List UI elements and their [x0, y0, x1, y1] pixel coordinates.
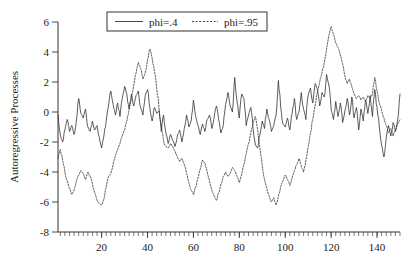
chart-background — [0, 0, 413, 276]
x-tick-label: 80 — [234, 241, 246, 253]
x-tick-label: 100 — [277, 241, 294, 253]
y-tick-label: -6 — [40, 196, 50, 208]
y-axis-title: Autoregressive Processes — [8, 71, 20, 183]
x-tick-label: 40 — [142, 241, 154, 253]
autoregressive-processes-line-chart: Autoregressive Processes 6420-2-4-6-8 20… — [0, 0, 413, 276]
y-tick-label: 4 — [44, 46, 50, 58]
x-tick-label: 120 — [323, 241, 340, 253]
legend-label-phi-095: phi=.95 — [224, 16, 259, 28]
x-tick-label: 20 — [96, 241, 108, 253]
legend: phi=.4 phi=.95 — [107, 12, 267, 31]
y-tick-label: -2 — [40, 136, 49, 148]
y-tick-label: 0 — [44, 106, 50, 118]
legend-label-phi-04: phi=.4 — [149, 16, 178, 28]
y-tick-label: -8 — [40, 226, 50, 238]
chart-figure: Autoregressive Processes 6420-2-4-6-8 20… — [0, 0, 413, 276]
x-tick-label: 140 — [369, 241, 386, 253]
y-tick-label: 6 — [44, 16, 50, 28]
y-tick-label: 2 — [44, 76, 50, 88]
y-tick-label: -4 — [40, 166, 50, 178]
x-tick-label: 60 — [188, 241, 200, 253]
